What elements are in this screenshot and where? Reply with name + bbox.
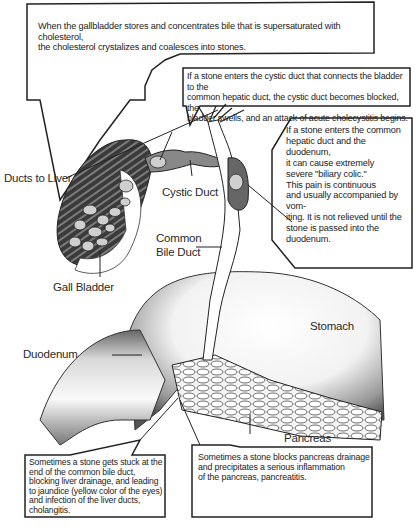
callout-line: Sometimes a stone blocks pancreas draina… — [198, 452, 370, 462]
callout-line: If a stone enters the cystic duct that c… — [187, 71, 411, 92]
label-common-bile-duct-line1: Common — [156, 232, 201, 245]
callout-line: bladder swells, and an attack of acute c… — [187, 113, 411, 124]
label-gall-bladder: Gall Bladder — [53, 281, 114, 294]
callout-line: and usually accompanied by vom- — [286, 190, 411, 212]
callout-line: common hepatic duct, the cystic duct bec… — [187, 92, 411, 113]
callout-line: iting. It is not relieved until the — [286, 212, 411, 223]
callout-bile-duct-text: Sometimes a stone gets stuck at the end … — [29, 458, 165, 516]
label-stomach: Stomach — [310, 320, 354, 333]
callout-line: of the pancreas, pancreatitis. — [198, 472, 370, 482]
callout-line: and precipitates a serious inflammation — [198, 462, 370, 472]
callout-line: it can cause extremely — [286, 158, 411, 169]
callout-hepatic-text: If a stone enters the common hepatic duc… — [286, 125, 411, 245]
callout-line: severe "biliary colic." — [286, 169, 411, 180]
callout-line: hepatic duct and the duodenum, — [286, 136, 411, 158]
callout-line: If a stone enters the common — [286, 125, 411, 136]
callout-cystic-text: If a stone enters the cystic duct that c… — [187, 71, 411, 124]
callout-line: the cholesterol crystalizes and coalesce… — [38, 42, 378, 53]
label-cystic-duct: Cystic Duct — [162, 186, 218, 199]
callout-pancreas-text: Sometimes a stone blocks pancreas draina… — [198, 452, 370, 482]
callout-line: cholangitis. — [29, 506, 165, 516]
callout-line: When the gallbladder stores and concentr… — [38, 21, 378, 42]
label-common-bile-duct-line2: Bile Duct — [156, 246, 200, 259]
callout-line: This pain is continuous — [286, 180, 411, 191]
callout-line: duodenum. — [286, 234, 411, 245]
label-pancreas: Pancreas — [284, 432, 331, 445]
label-ducts-to-liver: Ducts to Liver — [4, 172, 72, 185]
callout-formation-text: When the gallbladder stores and concentr… — [38, 21, 378, 53]
label-duodenum: Duodenum — [23, 348, 78, 361]
callout-line: stone is passed into the — [286, 223, 411, 234]
